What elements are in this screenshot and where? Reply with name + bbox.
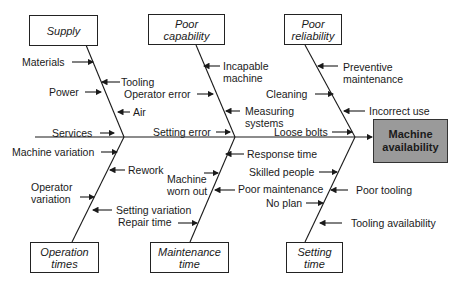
category-operation-times: Operation times [30, 242, 99, 273]
cause-measuring-systems-1: Measuring [245, 105, 294, 117]
cause-incapable-machine-1: Incapable [223, 60, 269, 72]
cause-repair-time: Repair time [118, 216, 172, 228]
cause-air: Air [133, 106, 146, 118]
cause-poor-tooling: Poor tooling [356, 184, 412, 196]
cause-power: Power [49, 86, 79, 98]
category-setting-time-line2: time [304, 258, 325, 270]
category-poor-capability-line1: Poor [175, 18, 198, 30]
category-maintenance-time-line2: time [179, 258, 200, 270]
category-maintenance-time-line1: Maintenance [158, 246, 221, 258]
cause-loose-bolts: Loose bolts [274, 126, 328, 138]
category-poor-capability-line2: capability [164, 30, 210, 42]
cause-services: Services [52, 127, 92, 139]
cause-machine-variation: Machine variation [12, 146, 94, 158]
category-maintenance-time: Maintenance time [150, 242, 229, 273]
cause-machine-worn-out-1: Machine [167, 173, 207, 185]
category-poor-reliability: Poor reliability [284, 14, 342, 45]
cause-operator-variation-2: variation [31, 193, 71, 205]
cause-materials: Materials [22, 56, 65, 68]
cause-rework: Rework [128, 164, 164, 176]
cause-preventive-maintenance-1: Preventive [343, 61, 393, 73]
cause-response-time: Response time [247, 148, 317, 160]
category-operation-times-line2: times [51, 258, 77, 270]
cause-preventive-maintenance-2: maintenance [343, 73, 403, 85]
cause-tooling: Tooling [121, 76, 154, 88]
effect-line2: availability [382, 141, 438, 154]
cause-operator-variation-1: Operator [31, 181, 72, 193]
cause-machine-worn-out-2: worn out [167, 185, 207, 197]
cause-incapable-machine-2: machine [223, 72, 263, 84]
category-supply: Supply [29, 15, 98, 46]
category-poor-capability: Poor capability [148, 14, 225, 45]
cause-skilled-people: Skilled people [249, 166, 314, 178]
category-setting-time: Setting time [286, 242, 343, 273]
cause-tooling-availability: Tooling availability [351, 217, 436, 229]
category-poor-reliability-line2: reliability [292, 30, 335, 42]
category-operation-times-line1: Operation [40, 246, 88, 258]
cause-incorrect-use: Incorrect use [369, 105, 430, 117]
cause-cleaning: Cleaning [266, 88, 307, 100]
cause-poor-maintenance: Poor maintenance [238, 183, 323, 195]
category-poor-reliability-line1: Poor [301, 18, 324, 30]
effect-line1: Machine [388, 128, 432, 141]
category-setting-time-line1: Setting [297, 246, 331, 258]
effect-box: Machine availability [373, 119, 448, 163]
cause-setting-variation: Setting variation [116, 204, 191, 216]
cause-setting-error: Setting error [153, 126, 211, 138]
cause-no-plan: No plan [266, 197, 302, 209]
cause-operator-error: Operator error [124, 88, 191, 100]
category-supply-label: Supply [47, 25, 81, 37]
